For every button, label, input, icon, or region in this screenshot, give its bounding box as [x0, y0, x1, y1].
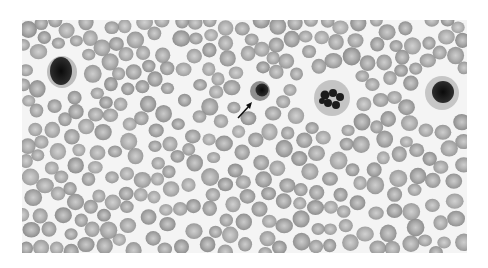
- nucleated-rbc: [250, 81, 270, 101]
- lymphocyte-right: [425, 76, 459, 110]
- blood-smear-micrograph: [22, 20, 467, 253]
- cell-field: [22, 20, 467, 253]
- red-blood-cells: [22, 20, 467, 253]
- neutrophil-center: [314, 80, 350, 116]
- lymphocyte-left: [47, 56, 77, 88]
